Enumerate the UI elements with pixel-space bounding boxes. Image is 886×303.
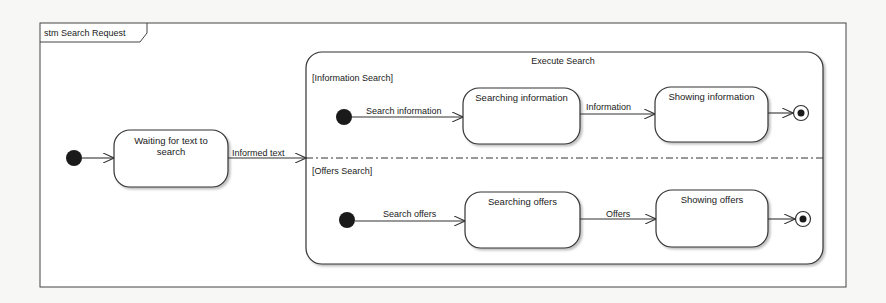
- state-showing-offers-label: Showing offers: [656, 194, 768, 205]
- transition-search-information-label: Search information: [366, 106, 442, 116]
- transition-information-label: Information: [586, 102, 631, 112]
- transition-search-offers-label: Search offers: [383, 209, 436, 219]
- region-information-label: [Information Search]: [312, 73, 393, 83]
- state-waiting-label: Waiting for text to search: [120, 135, 222, 157]
- initial-state-icon: [66, 150, 82, 166]
- final-state-offers-icon: [796, 212, 811, 227]
- transition-informed-text-label: Informed text: [232, 148, 285, 158]
- region-offers-label: [Offers Search]: [312, 166, 372, 176]
- final-state-info-icon: [794, 106, 809, 121]
- state-showing-information-label: Showing information: [655, 91, 768, 102]
- composite-state-title: Execute Search: [506, 56, 620, 66]
- frame-title: stm Search Request: [44, 28, 126, 38]
- initial-state-offers-icon: [339, 212, 355, 228]
- initial-state-info-icon: [336, 109, 352, 125]
- state-searching-information-label: Searching information: [463, 92, 580, 103]
- transition-offers-label: Offers: [606, 209, 630, 219]
- state-machine-diagram: stm Search Request Waiting for text to s…: [0, 0, 886, 303]
- state-searching-offers-label: Searching offers: [465, 196, 580, 207]
